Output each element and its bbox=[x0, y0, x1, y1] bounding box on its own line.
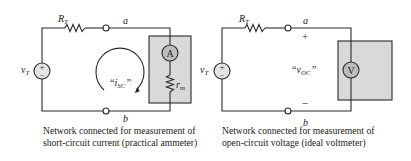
node-b-label: b bbox=[123, 113, 128, 124]
minus-sign: – bbox=[302, 97, 309, 108]
right-wire-top-left bbox=[222, 28, 245, 63]
terminal-a-icon bbox=[103, 25, 109, 31]
right-caption-line2: open-circuit voltage (ideal voltmeter) bbox=[222, 137, 366, 149]
resistor-rt-label: RT bbox=[238, 13, 250, 26]
left-wire-bottom-left bbox=[42, 79, 103, 111]
voc-label: “vOC” bbox=[291, 64, 317, 77]
source-minus-sign: − bbox=[220, 71, 225, 80]
source-vt-label: vT bbox=[200, 64, 209, 77]
node-a-label: a bbox=[123, 15, 128, 26]
isc-label: “iSC” bbox=[109, 77, 132, 90]
terminal-a-icon bbox=[285, 25, 291, 31]
right-wire-bottom-left bbox=[222, 79, 285, 111]
left-caption-line1: Network connected for measurement of bbox=[43, 125, 196, 136]
ammeter-symbol: A bbox=[166, 48, 174, 59]
left-wire-top-left bbox=[42, 28, 65, 63]
left-caption-line2: short-circuit current (practical ammeter… bbox=[43, 137, 197, 149]
source-minus-sign: − bbox=[40, 71, 45, 80]
source-vt-label: vT bbox=[21, 64, 30, 77]
terminal-b-icon bbox=[285, 108, 291, 114]
circuit-diagram: + − A RT a b vT rm “iSC” Network connect… bbox=[0, 0, 411, 161]
terminal-b-icon bbox=[103, 108, 109, 114]
left-circuit: + − A RT a b vT rm “iSC” Network connect… bbox=[21, 13, 197, 149]
right-caption-line1: Network connected for measurement of bbox=[222, 125, 375, 136]
node-a-label: a bbox=[303, 15, 308, 26]
right-circuit: + − V RT a b + – vT “vOC” Network connec… bbox=[200, 13, 392, 149]
plus-sign: + bbox=[302, 31, 308, 42]
resistor-rt-label: RT bbox=[57, 13, 69, 26]
voltmeter-symbol: V bbox=[347, 65, 355, 76]
